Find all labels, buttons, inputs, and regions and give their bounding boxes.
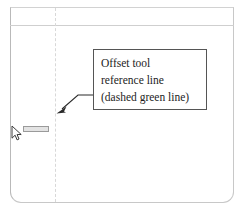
canvas-header-rule	[10, 25, 234, 26]
callout-line-3: (dashed green line)	[101, 89, 206, 106]
callout-line-2: reference line	[101, 72, 206, 89]
callout-line-1: Offset tool	[101, 55, 206, 72]
offset-reference-line	[55, 8, 56, 202]
callout-box: Offset tool reference line (dashed green…	[93, 49, 207, 110]
drawing-canvas-screenshot: Offset tool reference line (dashed green…	[0, 0, 246, 215]
mouse-pointer-icon	[11, 125, 24, 142]
cursor-tooltip	[23, 126, 49, 132]
